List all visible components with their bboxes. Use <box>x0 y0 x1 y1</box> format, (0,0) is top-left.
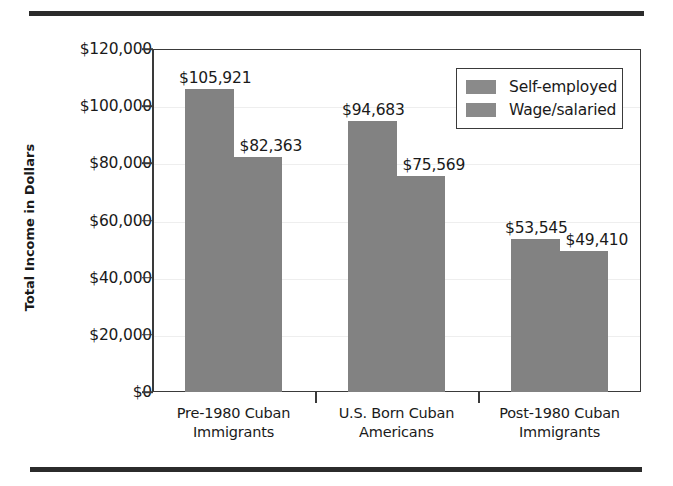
x-axis-category-label: U.S. Born CubanAmericans <box>315 404 478 442</box>
y-axis-tick-mark <box>142 163 153 165</box>
bar <box>185 89 234 392</box>
x-axis-category-label-line: U.S. Born Cuban <box>315 404 478 423</box>
legend-item-label: Self-employed <box>509 78 617 96</box>
y-axis-tick-label: $120,000 <box>34 40 152 58</box>
y-axis-tick-mark <box>142 277 153 279</box>
y-axis-tick-mark <box>142 334 153 336</box>
x-axis-category-label: Pre-1980 CubanImmigrants <box>152 404 315 442</box>
x-axis-group-tick <box>315 392 317 403</box>
bar <box>560 251 609 392</box>
legend-item: Self-employed <box>466 75 613 98</box>
legend-item-label: Wage/salaried <box>509 101 616 119</box>
y-axis-tick-label: $0 <box>34 383 152 401</box>
y-axis-tick-label: $80,000 <box>34 154 152 172</box>
x-axis-group-tick <box>478 392 480 403</box>
grouped-bar-chart: Total Income in Dollars $0$20,000$40,000… <box>0 0 673 486</box>
y-axis-tick-group: $0$20,000$40,000$60,000$80,000$100,000$1… <box>14 0 152 486</box>
bar <box>234 157 283 392</box>
bar-value-label: $49,410 <box>566 231 629 251</box>
legend-color-swatch <box>466 80 496 94</box>
bar <box>511 239 560 392</box>
legend-color-swatch <box>466 103 496 117</box>
bar-value-label: $75,569 <box>403 156 466 176</box>
x-axis-category-label: Post-1980 CubanImmigrants <box>478 404 641 442</box>
x-axis-category-label-line: Immigrants <box>478 423 641 442</box>
y-axis-tick-mark <box>142 105 153 107</box>
bar-value-label: $105,921 <box>179 69 251 89</box>
bar <box>348 121 397 392</box>
legend-item: Wage/salaried <box>466 98 613 121</box>
x-axis-category-label-line: Post-1980 Cuban <box>478 404 641 423</box>
y-axis-tick-label: $100,000 <box>34 97 152 115</box>
bar <box>397 176 446 392</box>
x-axis-category-label-line: Pre-1980 Cuban <box>152 404 315 423</box>
bar-value-label: $53,545 <box>505 219 568 239</box>
y-axis-tick-mark <box>142 391 153 393</box>
y-axis-tick-label: $60,000 <box>34 212 152 230</box>
legend: Self-employedWage/salaried <box>456 68 623 129</box>
y-axis-tick-mark <box>142 220 153 222</box>
y-axis-tick-mark <box>142 48 153 50</box>
x-axis-category-label-line: Immigrants <box>152 423 315 442</box>
bar-value-label: $94,683 <box>342 101 405 121</box>
y-axis-tick-label: $40,000 <box>34 269 152 287</box>
x-axis-category-label-line: Americans <box>315 423 478 442</box>
y-axis-tick-label: $20,000 <box>34 326 152 344</box>
bar-value-label: $82,363 <box>240 137 303 157</box>
